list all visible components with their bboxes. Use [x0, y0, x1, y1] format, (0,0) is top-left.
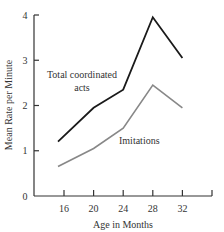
line-chart: 012341620242832 Mean Rate per Minute Age… — [0, 0, 224, 232]
y-tick-label: 2 — [23, 100, 28, 111]
x-axis-label: Age in Months — [93, 219, 153, 230]
x-tick-label: 16 — [59, 203, 69, 214]
x-tick-label: 24 — [118, 203, 128, 214]
x-tick-label: 20 — [89, 203, 99, 214]
axes: 012341620242832 — [23, 10, 213, 215]
x-tick-label: 28 — [148, 203, 158, 214]
y-tick-label: 0 — [23, 191, 28, 202]
y-tick-label: 1 — [23, 145, 28, 156]
y-tick-label: 3 — [23, 55, 28, 66]
series-label-total-coordinated-acts: Total coordinated — [47, 69, 117, 80]
series-line-imitations — [58, 85, 182, 166]
series-label-imitations: Imitations — [119, 135, 160, 146]
series-label-total-coordinated-acts-line2: acts — [74, 82, 90, 93]
x-tick-label: 32 — [177, 203, 187, 214]
y-axis-label: Mean Rate per Minute — [3, 59, 14, 150]
y-tick-label: 4 — [23, 10, 28, 21]
